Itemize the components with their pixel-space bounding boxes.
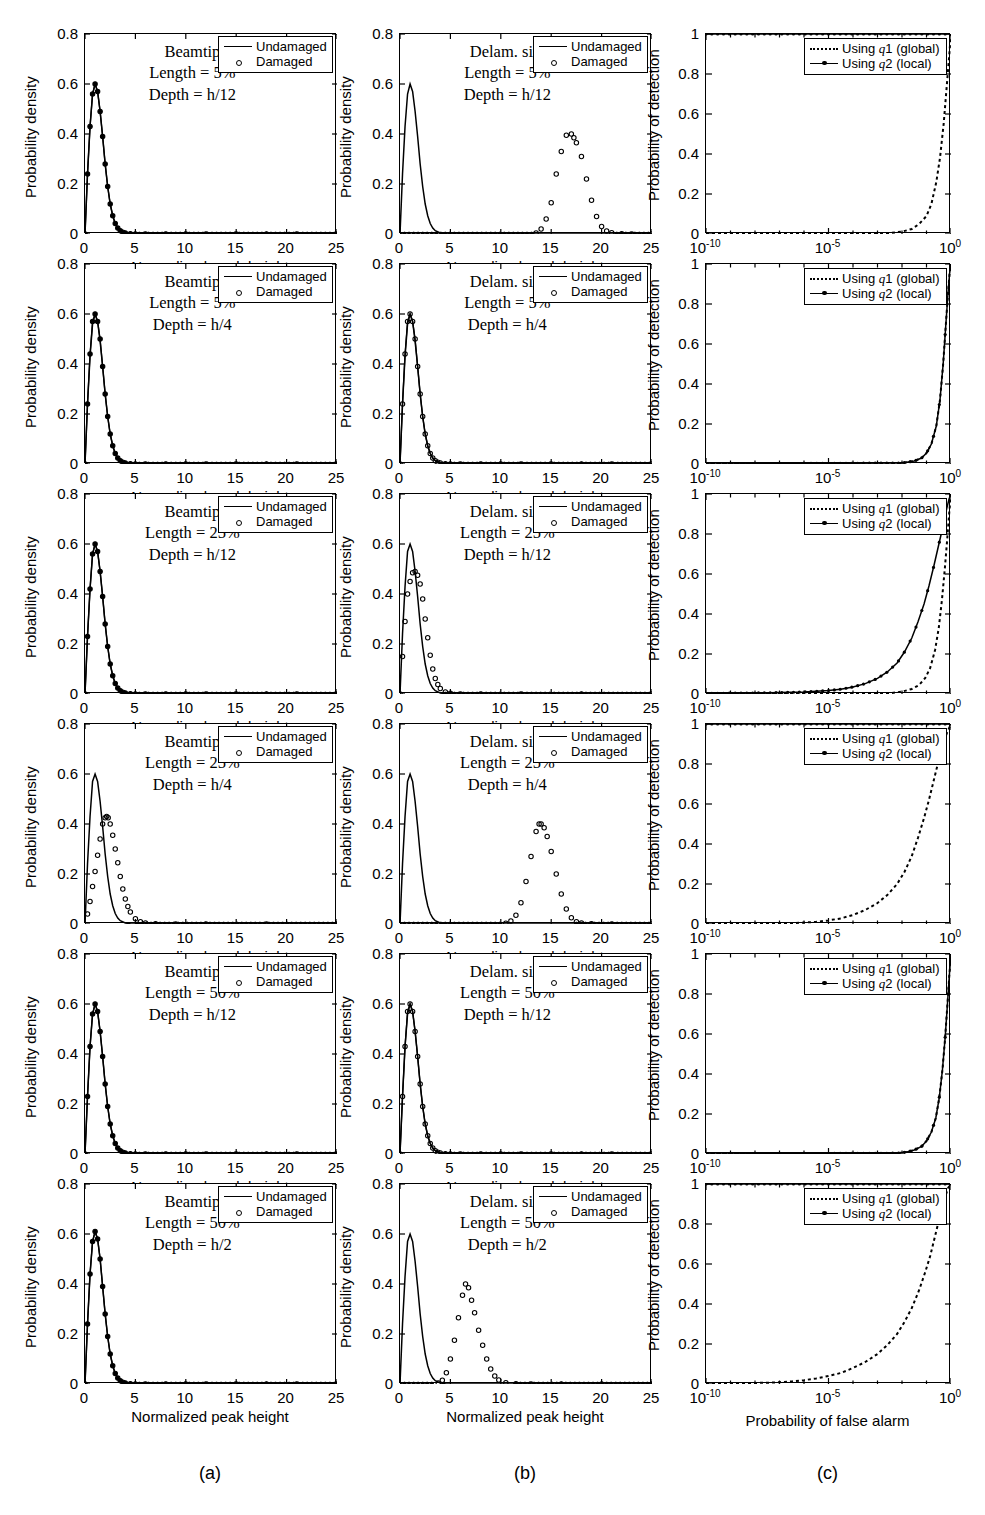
x-tick-label: 10-5: [815, 1388, 841, 1406]
x-axis-label: Probability of false alarm: [745, 1412, 909, 1429]
legend-entry: Using q2 (local): [809, 1206, 941, 1221]
panel-r6c: 10-1010-510000.20.40.60.81Probability of…: [0, 0, 985, 1515]
y-tick-label: 0: [655, 1375, 699, 1392]
y-axis-label: Probability of detection: [645, 1199, 662, 1351]
legend-entry: Using q1 (global): [809, 1191, 941, 1206]
x-tick-label: 100: [939, 1388, 961, 1406]
y-tick-label: 1: [655, 1175, 699, 1192]
column-caption-c: (c): [817, 1463, 838, 1484]
legend-label: Using q2 (local): [842, 1207, 932, 1220]
figure-root: 051015202500.20.40.60.8Normalized peak h…: [0, 0, 985, 1515]
legend-dotted-swatch-icon: [809, 1193, 839, 1205]
legend-label: Using q1 (global): [842, 1192, 940, 1205]
column-caption-a: (a): [199, 1463, 221, 1484]
legend-r6c[interactable]: Using q1 (global)Using q2 (local): [804, 1188, 947, 1225]
legend-solid-swatch-icon: [809, 1208, 839, 1220]
column-caption-b: (b): [514, 1463, 536, 1484]
